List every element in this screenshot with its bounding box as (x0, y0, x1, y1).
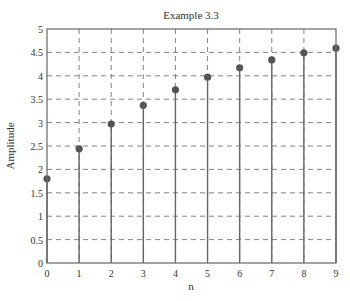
stem-marker (268, 56, 275, 63)
y-axis-label: Amplitude (4, 122, 16, 169)
x-tick-label: 0 (45, 268, 50, 279)
y-tick-label: 1.5 (31, 188, 44, 199)
y-tick-label: 4 (38, 71, 43, 82)
x-tick-label: 4 (173, 268, 178, 279)
x-axis-label: n (188, 280, 194, 292)
y-tick-label: 0.5 (31, 235, 44, 246)
stem-marker (204, 74, 211, 81)
y-tick-label: 3.5 (31, 94, 44, 105)
x-tick-label: 1 (77, 268, 82, 279)
x-tick-label: 9 (334, 268, 339, 279)
x-tick-label: 7 (269, 268, 274, 279)
y-tick-label: 1 (38, 211, 43, 222)
stem-marker (76, 145, 83, 152)
y-tick-label: 2.5 (31, 141, 44, 152)
x-tick-label: 6 (237, 268, 242, 279)
axis-ticks: 00.511.522.533.544.550123456789 (31, 24, 339, 279)
y-tick-label: 3 (38, 118, 43, 129)
x-tick-label: 3 (141, 268, 146, 279)
stem-series (43, 45, 339, 263)
stem-marker (108, 120, 115, 127)
y-tick-label: 2 (38, 164, 43, 175)
x-tick-label: 2 (109, 268, 114, 279)
grid-lines (47, 29, 336, 263)
x-tick-label: 8 (301, 268, 306, 279)
y-tick-label: 5 (38, 24, 43, 35)
y-tick-label: 4.5 (31, 47, 44, 58)
stem-marker (172, 86, 179, 93)
stem-chart: 00.511.522.533.544.550123456789 Example … (0, 0, 350, 301)
x-tick-label: 5 (205, 268, 210, 279)
stem-marker (140, 102, 147, 109)
stem-marker (236, 64, 243, 71)
y-tick-label: 0 (38, 258, 43, 269)
stem-marker (300, 49, 307, 56)
chart-title: Example 3.3 (163, 9, 219, 21)
